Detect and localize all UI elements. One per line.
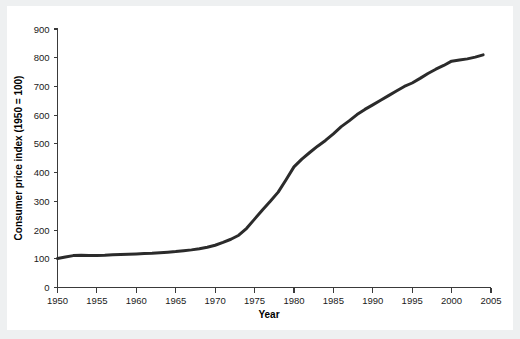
- y-tick-label-200: 200: [34, 225, 50, 236]
- y-tick-label-400: 400: [34, 167, 50, 178]
- x-tick-label-1980: 1980: [283, 295, 304, 306]
- x-axis-group: 1950195519601965197019751980198519901995…: [47, 288, 502, 321]
- y-tick-label-900: 900: [34, 24, 50, 35]
- x-axis-ticks: 1950195519601965197019751980198519901995…: [47, 288, 502, 306]
- chart-figure: 0100200300400500600700800900 Consumer pr…: [7, 6, 513, 330]
- y-axis-group: 0100200300400500600700800900 Consumer pr…: [13, 24, 58, 294]
- x-tick-label-1960: 1960: [126, 295, 147, 306]
- y-axis-title: Consumer price index (1950 = 100): [13, 76, 24, 241]
- x-tick-label-1955: 1955: [86, 295, 107, 306]
- y-tick-label-600: 600: [34, 110, 50, 121]
- x-tick-label-1975: 1975: [244, 295, 265, 306]
- y-tick-label-700: 700: [34, 81, 50, 92]
- x-axis-title: Year: [258, 309, 279, 320]
- x-tick-label-1965: 1965: [165, 295, 186, 306]
- x-tick-label-1995: 1995: [402, 295, 423, 306]
- x-tick-label-1950: 1950: [47, 295, 68, 306]
- x-tick-label-2005: 2005: [480, 295, 501, 306]
- x-tick-label-2000: 2000: [441, 295, 462, 306]
- y-tick-label-100: 100: [34, 253, 50, 264]
- y-tick-label-800: 800: [34, 52, 50, 63]
- y-tick-label-500: 500: [34, 138, 50, 149]
- data-line-consumer-price-index: [58, 55, 484, 259]
- x-tick-label-1970: 1970: [205, 295, 226, 306]
- series-group: [58, 55, 484, 259]
- y-tick-label-300: 300: [34, 196, 50, 207]
- y-tick-label-0: 0: [44, 282, 49, 293]
- y-axis-ticks: 0100200300400500600700800900: [34, 24, 58, 294]
- consumer-price-index-line-chart: 0100200300400500600700800900 Consumer pr…: [7, 6, 513, 330]
- x-tick-label-1990: 1990: [362, 295, 383, 306]
- x-tick-label-1985: 1985: [323, 295, 344, 306]
